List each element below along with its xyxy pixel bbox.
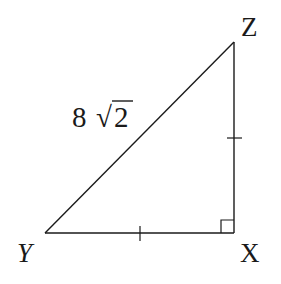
right-angle-marker: [221, 220, 234, 233]
vertex-label-y: Y: [17, 238, 35, 268]
radical-symbol: √: [96, 101, 112, 133]
hypotenuse-length-coefficient: 8: [72, 101, 87, 133]
radicand: 2: [114, 101, 129, 133]
vertex-label-z: Z: [241, 12, 258, 42]
vertex-label-x: X: [240, 238, 260, 268]
triangle-diagram: Z Y X 8 √ 2: [0, 0, 281, 284]
side-yz-hypotenuse: [45, 42, 234, 233]
